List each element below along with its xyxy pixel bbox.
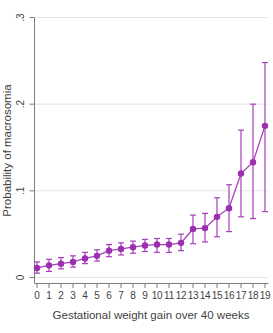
- plot-area: 0.1.2.3012345678910111213141516171819 Pr…: [0, 0, 273, 333]
- x-tick-label: 6: [106, 290, 112, 301]
- data-point-marker: [142, 242, 148, 248]
- x-tick-label: 18: [248, 290, 259, 301]
- data-point-marker: [178, 240, 184, 246]
- data-point-marker: [118, 246, 124, 252]
- x-tick-label: 15: [212, 290, 223, 301]
- y-tick-label: .3: [15, 13, 26, 22]
- x-tick-label: 5: [94, 290, 100, 301]
- x-tick-label: 10: [152, 290, 163, 301]
- chart: 0.1.2.3012345678910111213141516171819 Pr…: [0, 0, 273, 333]
- data-point-marker: [70, 259, 76, 265]
- data-point-marker: [34, 265, 40, 271]
- x-tick-label: 0: [34, 290, 40, 301]
- x-tick-label: 4: [82, 290, 88, 301]
- data-point-marker: [250, 159, 256, 165]
- data-point-marker: [82, 255, 88, 261]
- x-tick-label: 13: [188, 290, 199, 301]
- y-tick-label: .2: [15, 100, 26, 109]
- x-tick-label: 1: [46, 290, 52, 301]
- data-point-marker: [154, 241, 160, 247]
- x-tick-label: 3: [70, 290, 76, 301]
- x-tick-label: 19: [260, 290, 271, 301]
- y-tick-label: .1: [15, 186, 26, 195]
- plot-dynamic-layer: 0.1.2.3012345678910111213141516171819: [15, 13, 271, 301]
- data-point-marker: [106, 247, 112, 253]
- data-point-marker: [226, 205, 232, 211]
- data-point-marker: [190, 226, 196, 232]
- x-tick-label: 7: [118, 290, 124, 301]
- data-point-marker: [130, 244, 136, 250]
- data-point-marker: [166, 241, 172, 247]
- y-axis-title: Probability of macrosomia: [1, 84, 13, 217]
- x-tick-label: 16: [224, 290, 235, 301]
- data-point-marker: [238, 170, 244, 176]
- x-axis-title: Gestational weight gain over 40 weeks: [53, 309, 250, 321]
- data-point-marker: [202, 225, 208, 231]
- x-tick-label: 14: [200, 290, 211, 301]
- series-line: [37, 126, 265, 268]
- data-point-marker: [214, 214, 220, 220]
- x-tick-label: 17: [236, 290, 247, 301]
- data-point-marker: [94, 253, 100, 259]
- x-tick-label: 11: [164, 290, 175, 301]
- data-point-marker: [46, 262, 52, 268]
- x-tick-label: 9: [142, 290, 148, 301]
- y-tick-label: 0: [15, 274, 26, 280]
- x-tick-label: 2: [58, 290, 64, 301]
- x-tick-label: 12: [176, 290, 187, 301]
- x-tick-label: 8: [130, 290, 136, 301]
- data-point-marker: [262, 123, 268, 129]
- data-point-marker: [58, 260, 64, 266]
